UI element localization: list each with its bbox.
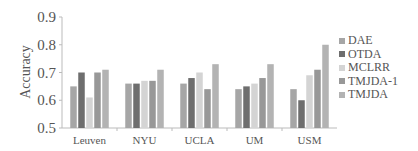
bar-otda-leuven: [78, 73, 85, 129]
bars: [70, 45, 329, 128]
legend-item: TMJDA-1: [339, 75, 398, 89]
x-tick-label: UCLA: [185, 134, 215, 146]
y-tick-label: 0.9: [37, 9, 56, 25]
bar-mclrr-um: [251, 84, 258, 128]
bar-mclrr-usm: [306, 75, 313, 128]
x-axis: LeuvenNYUUCLAUMUSM: [62, 128, 337, 146]
bar-dae-ucla: [180, 84, 187, 128]
x-tick-label: NYU: [133, 134, 157, 146]
legend: DAEOTDAMCLRRTMJDA-1TMJDA: [339, 34, 398, 102]
y-tick-label: 0.5: [37, 120, 56, 136]
bar-tmjda-nyu: [157, 70, 164, 128]
legend-label: TMJDA: [348, 87, 388, 102]
legend-item: DAE: [339, 34, 398, 48]
y-axis-label: Accuracy: [18, 45, 33, 99]
y-tick-label: 0.8: [37, 37, 56, 53]
bar-tmjda-usm: [322, 45, 329, 128]
legend-item: MCLRR: [339, 61, 398, 75]
legend-item: OTDA: [339, 48, 398, 62]
y-axis: 0.50.60.70.80.9: [37, 9, 62, 136]
bar-tmjda-leuven: [102, 70, 109, 128]
bar-otda-um: [243, 86, 250, 128]
y-tick-label: 0.7: [37, 65, 56, 81]
legend-swatch: [339, 78, 345, 84]
bar-tmjda-um: [267, 64, 274, 128]
bar-dae-nyu: [125, 84, 132, 128]
legend-swatch: [339, 38, 345, 44]
bar-tmjda-ucla: [212, 64, 219, 128]
bar-mclrr-nyu: [141, 81, 148, 128]
bar-tmjda-1-um: [259, 78, 266, 128]
legend-swatch: [339, 92, 345, 98]
bar-otda-nyu: [133, 84, 140, 128]
bar-tmjda-1-ucla: [204, 89, 211, 128]
x-tick-label: UM: [246, 134, 264, 146]
bar-mclrr-ucla: [196, 73, 203, 129]
bar-tmjda-1-nyu: [149, 81, 156, 128]
bar-tmjda-1-usm: [314, 70, 321, 128]
bar-dae-um: [235, 89, 242, 128]
legend-swatch: [339, 51, 345, 57]
x-tick-label: USM: [298, 134, 322, 146]
legend-item: TMJDA: [339, 88, 398, 102]
bar-tmjda-1-leuven: [94, 73, 101, 129]
x-tick-label: Leuven: [73, 134, 106, 146]
y-tick-label: 0.6: [37, 92, 56, 108]
bar-dae-usm: [290, 89, 297, 128]
bar-otda-ucla: [188, 78, 195, 128]
legend-swatch: [339, 65, 345, 71]
bar-otda-usm: [298, 100, 305, 128]
bar-mclrr-leuven: [86, 97, 93, 128]
bar-dae-leuven: [70, 86, 77, 128]
